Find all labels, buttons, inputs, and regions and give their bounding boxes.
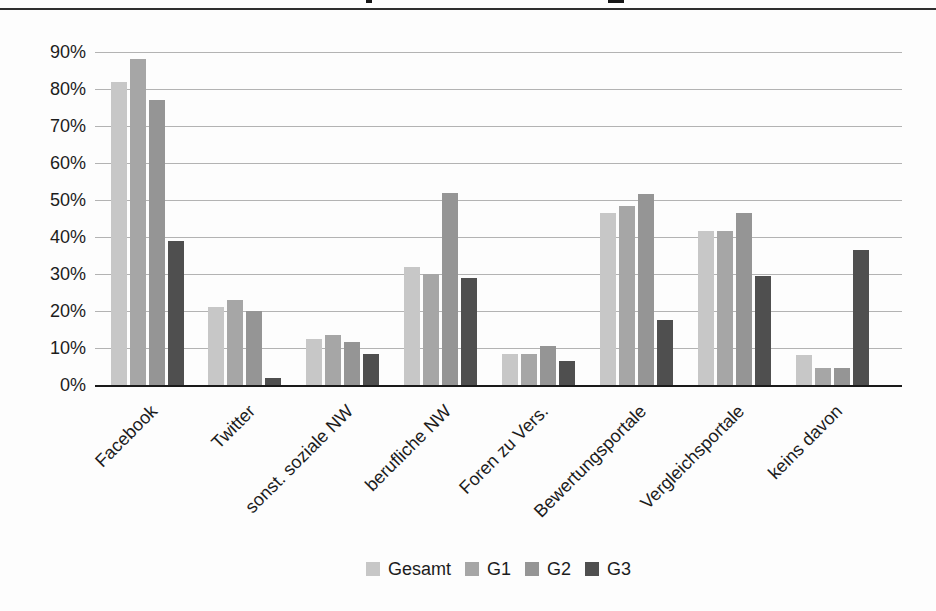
gridline-70 [95, 126, 902, 127]
bar-g1-berufliche-nw [423, 274, 439, 385]
legend-swatch-g3 [585, 562, 599, 576]
legend: GesamtG1G2G3 [95, 556, 902, 582]
bar-gesamt-foren-zu-vers [502, 354, 518, 385]
page-top-rule [0, 8, 936, 10]
legend-item-g1: G1 [465, 559, 511, 579]
gridline-90 [95, 52, 902, 53]
legend-item-g2: G2 [525, 559, 571, 579]
cropped-text-fragment [366, 0, 372, 3]
x-axis-label-twitter: Twitter [207, 401, 259, 453]
x-axis-label-keins-davon: keins davon [764, 401, 847, 484]
legend-item-gesamt: Gesamt [366, 559, 451, 579]
bar-g1-facebook [130, 59, 146, 385]
bar-g2-bewertungsportale [638, 194, 654, 385]
bar-g2-sonst-soziale-nw [344, 342, 360, 385]
bar-gesamt-bewertungsportale [600, 213, 616, 385]
gridline-60 [95, 163, 902, 164]
bar-g1-bewertungsportale [619, 206, 635, 385]
legend-swatch-g2 [525, 562, 539, 576]
bar-g1-sonst-soziale-nw [325, 335, 341, 385]
x-axis-label-foren-zu-vers: Foren zu Vers. [456, 401, 554, 499]
bar-g1-foren-zu-vers [521, 354, 537, 385]
x-axis-label-vergleichsportale: Vergleichsportale [637, 401, 749, 513]
y-tick-label-90: 90% [20, 41, 86, 63]
bar-g1-keins-davon [815, 368, 831, 385]
bar-g2-berufliche-nw [442, 193, 458, 385]
y-tick-label-20: 20% [20, 300, 86, 322]
bar-g3-bewertungsportale [657, 320, 673, 385]
bar-g3-vergleichsportale [755, 276, 771, 385]
bar-gesamt-keins-davon [796, 355, 812, 385]
gridline-40 [95, 237, 902, 238]
legend-swatch-gesamt [366, 562, 380, 576]
bar-g1-twitter [227, 300, 243, 385]
bar-g2-foren-zu-vers [540, 346, 556, 385]
bar-g3-foren-zu-vers [559, 361, 575, 385]
legend-label-g2: G2 [547, 559, 571, 579]
y-tick-label-40: 40% [20, 226, 86, 248]
bar-g3-sonst-soziale-nw [363, 354, 379, 385]
x-axis-label-sonst-soziale-nw: sonst. soziale NW [241, 401, 358, 518]
y-tick-label-10: 10% [20, 337, 86, 359]
bar-gesamt-berufliche-nw [404, 267, 420, 385]
x-axis-label-facebook: Facebook [91, 401, 162, 472]
legend-label-g3: G3 [607, 559, 631, 579]
bar-g2-facebook [149, 100, 165, 385]
gridline-30 [95, 274, 902, 275]
bar-g1-vergleichsportale [717, 231, 733, 385]
cropped-text-fragment [608, 0, 624, 3]
y-tick-label-60: 60% [20, 152, 86, 174]
bar-g3-twitter [265, 378, 281, 385]
gridline-80 [95, 89, 902, 90]
y-tick-label-50: 50% [20, 189, 86, 211]
bar-g3-keins-davon [853, 250, 869, 385]
bar-g3-berufliche-nw [461, 278, 477, 385]
y-tick-label-30: 30% [20, 263, 86, 285]
bar-gesamt-facebook [111, 82, 127, 385]
bar-g3-facebook [168, 241, 184, 385]
legend-item-g3: G3 [585, 559, 631, 579]
bar-g2-twitter [246, 311, 262, 385]
scanned-page: 0%10%20%30%40%50%60%70%80%90% FacebookTw… [0, 0, 936, 611]
x-axis-label-berufliche-nw: berufliche NW [361, 401, 456, 496]
bar-gesamt-twitter [208, 307, 224, 385]
y-tick-label-80: 80% [20, 78, 86, 100]
bar-g2-vergleichsportale [736, 213, 752, 385]
y-tick-label-0: 0% [20, 374, 86, 396]
legend-label-gesamt: Gesamt [388, 559, 451, 579]
bar-gesamt-vergleichsportale [698, 231, 714, 385]
legend-label-g1: G1 [487, 559, 511, 579]
y-tick-label-70: 70% [20, 115, 86, 137]
gridline-50 [95, 200, 902, 201]
bar-gesamt-sonst-soziale-nw [306, 339, 322, 385]
legend-swatch-g1 [465, 562, 479, 576]
bar-g2-keins-davon [834, 368, 850, 385]
